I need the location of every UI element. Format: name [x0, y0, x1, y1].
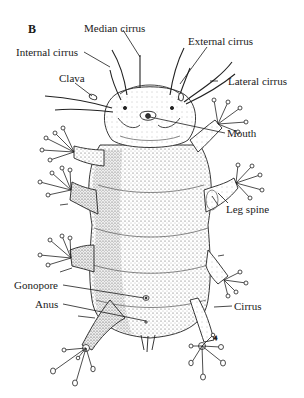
leg-4-left [51, 300, 126, 386]
label-cirrus: Cirrus [234, 300, 262, 312]
label-clava: Clava [59, 72, 85, 84]
leg-3-right [206, 250, 248, 298]
leg-3-left [38, 234, 94, 272]
tardigrade-illustration: 4 [0, 0, 304, 398]
label-internal-cirrus: Internal cirrus [16, 46, 78, 58]
label-leg-spine: Leg spine [226, 203, 269, 215]
leg-1-right [190, 98, 248, 152]
leg-1-left [40, 126, 104, 166]
leg-2-left [38, 166, 98, 214]
label-gonopore: Gonopore [14, 279, 58, 291]
label-median-cirrus: Median cirrus [84, 22, 145, 34]
label-external-cirrus: External cirrus [188, 35, 253, 47]
label-lateral-cirrus: Lateral cirrus [228, 75, 287, 87]
svg-text:4: 4 [214, 335, 217, 341]
label-anus: Anus [35, 298, 58, 310]
leg-4-right: 4 [189, 298, 226, 380]
label-mouth: Mouth [227, 127, 256, 139]
